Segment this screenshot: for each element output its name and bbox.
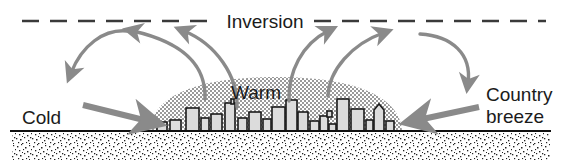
diagram-canvas: Inversion Warm Cold Country breeze [0, 0, 561, 166]
label-warm: Warm [231, 82, 281, 103]
descending-arrow-left [71, 31, 127, 73]
descending-arrow-right [420, 34, 469, 83]
ground-stipple-band [12, 133, 550, 160]
country-breeze-inflow-right [418, 107, 479, 120]
urban-heat-island-diagram: Inversion Warm Cold Country breeze [0, 0, 561, 166]
label-country-breeze-line1: Country [486, 84, 553, 105]
country-breeze-inflow-left [83, 105, 148, 121]
label-inversion: Inversion [226, 11, 303, 32]
label-cold: Cold [22, 107, 61, 128]
label-country-breeze-line2: breeze [486, 106, 544, 127]
